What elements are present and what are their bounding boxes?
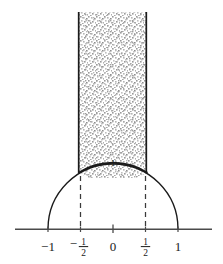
tick-label-neg1: −1 [41, 239, 55, 254]
tick-label-pos1: 1 [175, 239, 182, 254]
tick-label-pos-half-denominator: 2 [143, 248, 148, 258]
tick-label-neg-half-sign: − [70, 236, 77, 251]
semicircle-shaded-region-diagram: −1 − 1 2 0 1 2 1 1 [0, 0, 223, 264]
tick-label-neg-half: − 1 2 [70, 236, 88, 258]
figure-canvas: −1 − 1 2 0 1 2 1 1 [0, 0, 223, 264]
shaded-region [76, 10, 150, 178]
apex-value-label: 1 [111, 158, 116, 168]
tick-label-pos-half: 1 2 [141, 237, 150, 258]
shade-fill-overlay [76, 10, 150, 178]
tick-label-neg-half-numerator: 1 [81, 237, 86, 247]
tick-label-neg-half-denominator: 2 [81, 248, 86, 258]
tick-label-pos-half-numerator: 1 [143, 237, 148, 247]
tick-label-zero: 0 [110, 239, 117, 254]
